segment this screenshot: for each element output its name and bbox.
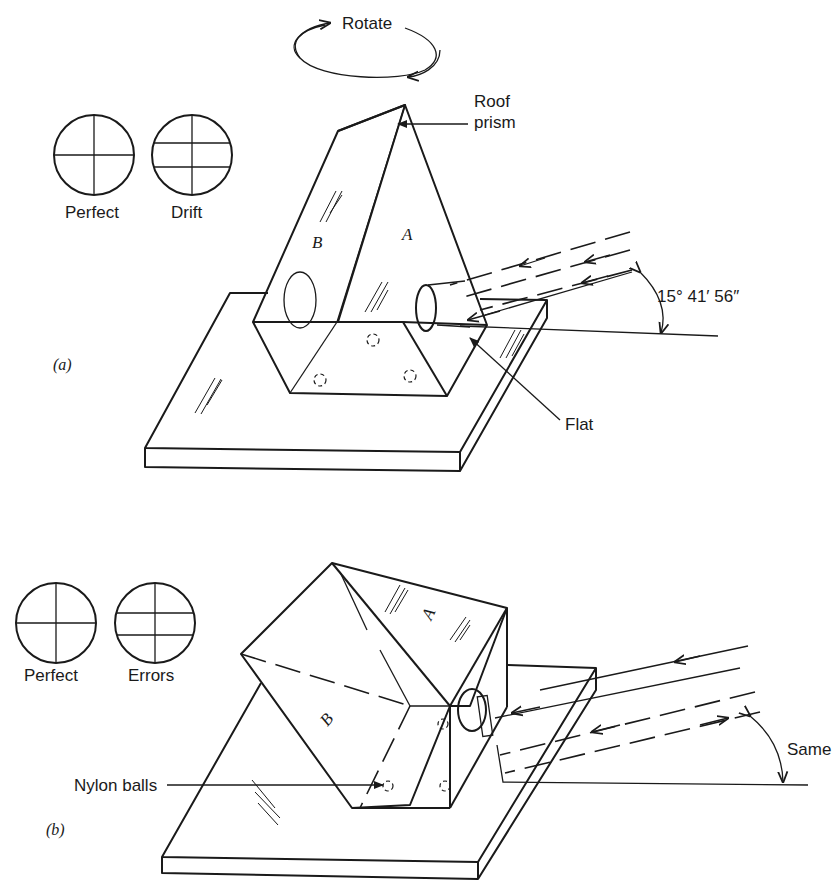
face-b-label-b: B xyxy=(316,709,338,730)
rotate-indicator: Rotate xyxy=(294,14,440,77)
face-a-label-b: A xyxy=(417,605,439,624)
reticle-perfect-b: Perfect xyxy=(16,583,96,685)
reticle-perfect-label-b: Perfect xyxy=(24,666,78,685)
reticle-perfect-a: Perfect xyxy=(54,115,134,222)
rotate-label: Rotate xyxy=(342,14,392,33)
reticle-perfect-label-a: Perfect xyxy=(65,203,119,222)
roof-prism-b: B A xyxy=(241,563,507,808)
roof-prism-a: B A xyxy=(253,105,487,396)
caption-b: (b) xyxy=(46,821,65,839)
reticle-errors: Errors xyxy=(115,583,195,685)
reticle-errors-label: Errors xyxy=(128,666,174,685)
light-beams-a: 15° 41′ 56″ xyxy=(450,232,739,336)
face-a-label-a: A xyxy=(401,225,413,244)
reticle-drift-label: Drift xyxy=(171,203,202,222)
roof-prism-label-line1: Roof xyxy=(474,92,510,111)
reticle-drift: Drift xyxy=(152,115,232,222)
roof-prism-diagram: Rotate Perfect Drift xyxy=(0,0,840,893)
nylon-balls-label: Nylon balls xyxy=(74,776,157,795)
face-b-label-a: B xyxy=(312,233,323,252)
roof-prism-label-line2: prism xyxy=(474,113,516,132)
angle-label-b: Same xyxy=(787,740,831,759)
angle-label-a: 15° 41′ 56″ xyxy=(657,287,739,306)
base-plate-a xyxy=(145,293,547,471)
flat-label: Flat xyxy=(565,415,594,434)
caption-a: (a) xyxy=(53,356,72,374)
